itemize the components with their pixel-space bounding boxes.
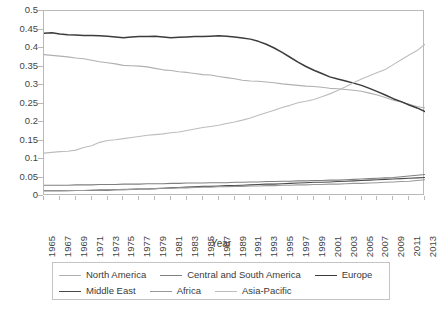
x-tick-mark (361, 196, 362, 200)
series-line (44, 44, 425, 153)
y-tick-label: 0.35 (20, 61, 39, 71)
x-tick-mark (122, 196, 123, 200)
x-tick-mark (345, 196, 346, 200)
x-tick-mark (202, 196, 203, 200)
y-tick-label: 0.4 (25, 42, 38, 52)
x-tick-mark (376, 196, 377, 200)
legend-label: Africa (177, 286, 201, 296)
x-tick-mark (408, 196, 409, 200)
x-tick-mark (329, 196, 330, 200)
x-tick-mark (313, 196, 314, 200)
x-tick-mark (91, 196, 92, 200)
x-tick-mark (186, 196, 187, 200)
legend-row: North AmericaCentral and South AmericaEu… (59, 267, 383, 283)
y-tick-label: 0.2 (25, 116, 38, 126)
x-tick-mark (170, 196, 171, 200)
legend-swatch-icon (59, 291, 81, 292)
legend-label: North America (86, 270, 146, 280)
legend-entry[interactable]: Central and South America (160, 270, 301, 280)
x-tick-mark (234, 196, 235, 200)
y-tick-label: 0.5 (25, 5, 38, 15)
legend-swatch-icon (160, 275, 182, 276)
x-tick-mark (297, 196, 298, 200)
legend-entry[interactable]: Asia-Pacific (215, 286, 292, 296)
legend-row: Middle EastAfricaAsia-Pacific (59, 283, 383, 299)
legend-label: Asia-Pacific (242, 286, 292, 296)
x-tick-mark (75, 196, 76, 200)
series-line (44, 55, 425, 108)
legend-label: Middle East (86, 286, 136, 296)
legend-swatch-icon (315, 275, 337, 276)
y-tick-label: 0.25 (20, 98, 39, 108)
x-tick-mark (59, 196, 60, 200)
legend-swatch-icon (215, 291, 237, 292)
legend-entry[interactable]: North America (59, 270, 146, 280)
chart-root: 00.050.10.150.20.250.30.350.40.450.5 196… (0, 0, 442, 310)
y-axis: 00.050.10.150.20.250.30.350.40.450.5 (0, 0, 43, 205)
series-line (44, 33, 425, 112)
x-tick-mark (154, 196, 155, 200)
x-axis-title: Year (0, 238, 442, 249)
y-tick-label: 0.15 (20, 135, 39, 145)
legend-entry[interactable]: Europe (315, 270, 373, 280)
legend-swatch-icon (59, 275, 81, 276)
x-tick-mark (249, 196, 250, 200)
y-tick-label: 0.3 (25, 79, 38, 89)
series-lines (44, 11, 425, 196)
x-tick-mark (281, 196, 282, 200)
plot-area (43, 10, 424, 195)
y-tick-label: 0.45 (20, 24, 39, 34)
chart-legend: North AmericaCentral and South AmericaEu… (52, 262, 390, 300)
x-tick-mark (43, 196, 44, 200)
y-tick-label: 0.05 (20, 172, 39, 182)
x-tick-mark (218, 196, 219, 200)
x-tick-mark (392, 196, 393, 200)
legend-label: Central and South America (187, 270, 301, 280)
legend-swatch-icon (150, 291, 172, 292)
x-axis: 1965196719691971197319751977197919811983… (43, 196, 424, 240)
x-tick-mark (138, 196, 139, 200)
legend-entry[interactable]: Middle East (59, 286, 136, 296)
x-tick-mark (265, 196, 266, 200)
x-tick-mark (107, 196, 108, 200)
legend-label: Europe (342, 270, 373, 280)
x-tick-mark (424, 196, 425, 200)
legend-entry[interactable]: Africa (150, 286, 201, 296)
y-tick-label: 0.1 (25, 153, 38, 163)
